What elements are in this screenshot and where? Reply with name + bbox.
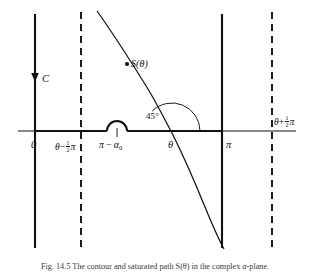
label-theta: θ <box>168 140 173 151</box>
label-angle-45: 45° <box>146 112 159 121</box>
fraction-denominator: 2 <box>66 147 70 153</box>
alpha-subscript: 0 <box>119 144 122 151</box>
label-pi-minus-alpha0: π−α0 <box>99 140 122 152</box>
saddle-point-marker <box>125 62 129 66</box>
half-fraction: 12 <box>66 140 70 153</box>
pi-glyph: π <box>290 116 295 127</box>
fraction-denominator: 2 <box>285 122 289 128</box>
pi-glyph: π <box>99 139 104 150</box>
figure-container: 0 C S(θ) 45° θ π θ−12π π−α0 θ+12π Fig. 1… <box>0 0 310 272</box>
label-contour-c: C <box>42 74 49 85</box>
pi-glyph: π <box>71 141 76 152</box>
label-saddle-path: S(θ) <box>131 59 148 69</box>
label-theta-minus-half-pi: θ−12π <box>55 140 76 153</box>
angle-value: 45° <box>146 111 159 121</box>
figure-caption: Fig. 14.5 The contour and saturated path… <box>0 262 310 272</box>
fraction-numerator: 1 <box>66 140 70 147</box>
label-theta-plus-half-pi: θ+12π <box>274 115 295 128</box>
angle-arc-45 <box>152 103 200 131</box>
fraction-numerator: 1 <box>285 115 289 122</box>
axis-label-zero: 0 <box>31 140 36 151</box>
figure-drawing <box>0 0 310 272</box>
minus-glyph: − <box>60 141 66 152</box>
plus-glyph: + <box>279 116 285 127</box>
arrow-down-icon <box>31 73 39 82</box>
half-fraction: 12 <box>285 115 289 128</box>
minus-glyph: − <box>106 139 112 150</box>
label-pi: π <box>226 140 231 151</box>
